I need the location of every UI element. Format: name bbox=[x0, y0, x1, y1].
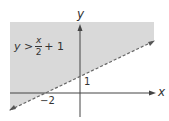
fraction-denominator: 2 bbox=[36, 48, 42, 57]
inequality-lhs: y > bbox=[14, 40, 33, 53]
fraction-numerator: x bbox=[36, 36, 41, 45]
inequality-graph bbox=[0, 0, 169, 121]
x-axis-arrow-icon bbox=[149, 91, 156, 96]
fraction: x 2 bbox=[35, 36, 42, 57]
x-axis-label: x bbox=[158, 86, 165, 98]
inequality-rhs: + 1 bbox=[44, 40, 64, 53]
y-axis-label: y bbox=[77, 8, 84, 20]
y-intercept-label: 1 bbox=[84, 77, 90, 87]
inequality-label: y > x 2 + 1 bbox=[14, 36, 64, 57]
x-intercept-label: −2 bbox=[40, 96, 55, 106]
